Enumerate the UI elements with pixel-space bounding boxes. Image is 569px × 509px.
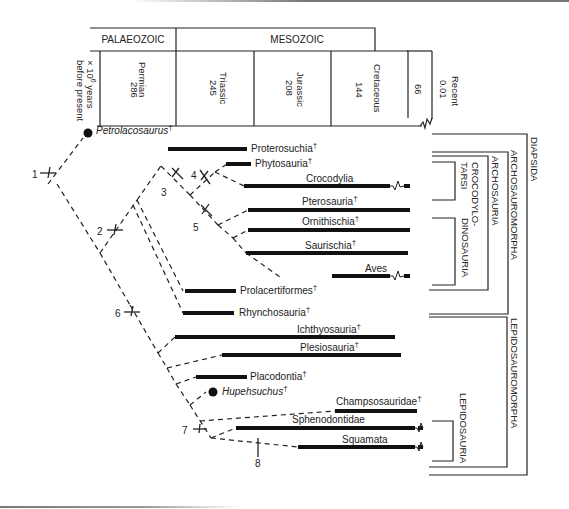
taxon-rhynchosauria: Rhynchosauria† — [239, 305, 310, 318]
group-lepidosauria: LEPIDOSAURIA — [458, 393, 469, 464]
node-1: 1 — [32, 169, 38, 180]
taxon-ornithischia: Ornithischia† — [302, 214, 359, 227]
bracket-crocodylotarsi — [432, 162, 455, 200]
node-7: 7 — [182, 425, 188, 436]
node-4: 4 — [191, 170, 197, 181]
phylogeny-diagram: PALAEOZOIC MESOZOIC × 106 years before p… — [0, 0, 569, 509]
era-palaeozoic: PALAEOZOIC — [101, 34, 164, 45]
taxon-petrolacosaurus: Petrolacosaurus† — [96, 123, 173, 136]
group-crocodylotarsi-1: CROCODYLO- — [470, 162, 481, 226]
taxon-ichthyosauria: Ichthyosauria† — [297, 322, 361, 335]
node-2: 2 — [97, 226, 103, 237]
node-3: 3 — [161, 187, 167, 198]
group-archosauria: ARCHOSAURIA — [490, 156, 501, 226]
period-jurassic-age: 208 — [284, 80, 295, 96]
node-8: 8 — [255, 458, 261, 469]
period-tertiary-age: 66 — [413, 84, 424, 95]
node-5: 5 — [193, 222, 199, 233]
group-diapsida: DIAPSIDA — [529, 137, 540, 182]
taxon-placodontia: Placodontia† — [250, 369, 307, 382]
period-triassic-age: 245 — [208, 80, 219, 96]
era-mesozoic: MESOZOIC — [270, 34, 323, 45]
taxon-sphenodontidae: Sphenodontidae — [292, 414, 365, 425]
period-cretaceous-name: Cretaceous — [372, 64, 383, 113]
recent-name: Recent — [450, 76, 461, 106]
petrolacosaurus-dot-icon — [84, 129, 93, 138]
taxon-champsosauridae: Champsosauridae† — [336, 394, 422, 407]
group-archosauromorpha: ARCHOSAUROMORPHA — [509, 150, 520, 260]
period-jurassic-name: Jurassic — [295, 72, 306, 107]
taxon-saurischia: Saurischia† — [305, 238, 356, 251]
hupehsuchus-dot-icon — [209, 388, 218, 397]
recent-age: 0.01 — [438, 80, 449, 99]
bracket-lepidosauria — [432, 421, 453, 461]
taxon-phytosauria: Phytosauria† — [255, 156, 312, 169]
taxon-squamata: Squamata — [342, 434, 388, 445]
node-6: 6 — [115, 308, 121, 319]
group-lepidosauromorpha: LEPIDOSAUROMORPHA — [509, 318, 520, 429]
period-cretaceous-age: 144 — [354, 82, 365, 98]
bracket-dinosauria — [432, 218, 455, 285]
taxon-hupehsuchus: Hupehsuchus† — [222, 384, 288, 397]
taxon-pterosauria: Pterosauria† — [302, 194, 358, 207]
taxon-aves: Aves — [365, 263, 387, 274]
taxon-crocodylia: Crocodylia — [306, 173, 354, 184]
taxon-plesiosauria: Plesiosauria† — [300, 340, 359, 353]
axis-label: × 106 years before present — [75, 60, 97, 122]
taxon-proterosuchia: Proterosuchia† — [251, 141, 317, 154]
taxon-prolacertiformes: Prolacertiformes† — [240, 283, 317, 296]
svg-text:before present: before present — [75, 60, 86, 122]
group-crocodylotarsi-2: TARSI — [459, 162, 470, 189]
period-permian-age: 286 — [129, 82, 140, 98]
group-dinosauria: DINOSAURIA — [460, 218, 471, 278]
